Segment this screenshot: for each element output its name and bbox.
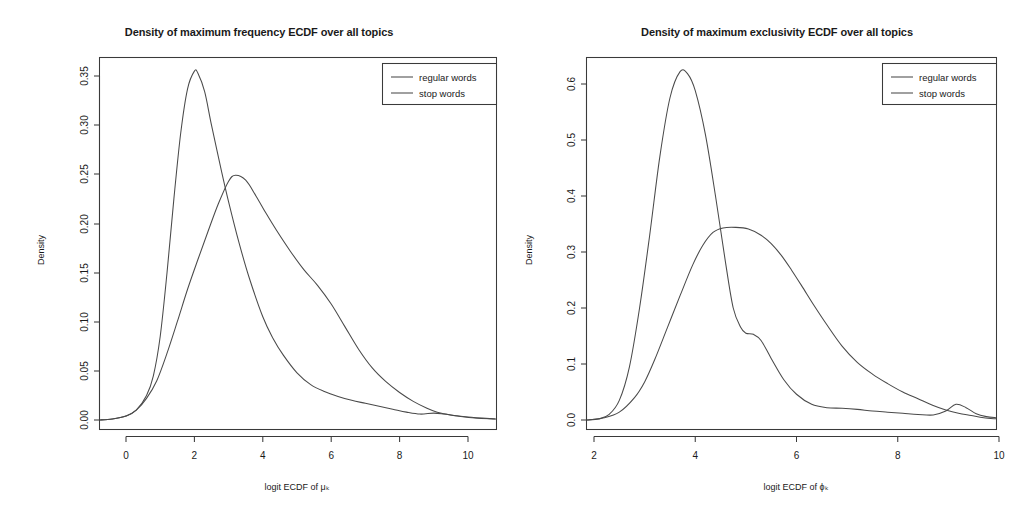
y-tick-label: 0.3 [566, 245, 577, 259]
y-axis-left: 0.00 0.05 0.10 0.15 0.20 0.25 0.30 0.35 [79, 66, 100, 430]
figure-container: Density of maximum frequency ECDF over a… [0, 0, 1036, 511]
curve-regular-words-left [99, 70, 496, 420]
y-tick-label: 0.1 [566, 357, 577, 371]
x-tick-label: 8 [397, 450, 403, 461]
chart-svg-frequency: Density of maximum frequency ECDF over a… [0, 0, 518, 511]
y-tick-label: 0.30 [79, 115, 90, 135]
y-axis-label-right: Density [524, 234, 534, 265]
y-tick-label: 0.5 [566, 133, 577, 147]
x-tick-label: 2 [591, 450, 597, 461]
chart-title-frequency: Density of maximum frequency ECDF over a… [125, 26, 393, 38]
y-tick-label: 0.20 [79, 214, 90, 234]
y-axis-label-left: Density [36, 234, 46, 265]
y-tick-label: 0.15 [79, 263, 90, 283]
legend-right[interactable]: regular words stop words [883, 64, 997, 105]
x-tick-label: 10 [462, 450, 474, 461]
x-axis-left: 0 2 4 6 8 10 [123, 437, 474, 462]
legend-label-regular-words: regular words [919, 72, 977, 83]
x-tick-label: 6 [328, 450, 334, 461]
y-tick-label: 0.6 [566, 77, 577, 91]
curve-stop-words-right [586, 227, 996, 420]
x-tick-label: 6 [794, 450, 800, 461]
plot-frame-right [587, 58, 997, 430]
legend-label-stop-words: stop words [919, 88, 965, 99]
chart-panel-exclusivity: Density of maximum exclusivity ECDF over… [518, 0, 1036, 511]
x-axis-label-right: logit ECDF of ϕₖ [763, 482, 828, 492]
y-tick-label: 0.10 [79, 312, 90, 332]
x-tick-label: 8 [895, 450, 901, 461]
y-tick-label: 0.4 [566, 189, 577, 203]
y-tick-label: 0.0 [566, 413, 577, 427]
y-tick-label: 0.25 [79, 164, 90, 184]
chart-panel-frequency: Density of maximum frequency ECDF over a… [0, 0, 518, 511]
y-tick-label: 0.00 [79, 410, 90, 430]
x-tick-label: 4 [692, 450, 698, 461]
chart-title-exclusivity: Density of maximum exclusivity ECDF over… [641, 26, 913, 38]
y-tick-label: 0.35 [79, 66, 90, 86]
curves-right [586, 70, 996, 420]
legend-label-stop-words: stop words [419, 88, 465, 99]
x-tick-label: 0 [123, 450, 129, 461]
x-axis-label-left: logit ECDF of μₖ [264, 482, 329, 492]
legend-left[interactable]: regular words stop words [383, 64, 497, 105]
curve-regular-words-right [586, 70, 996, 420]
y-axis-right: 0.0 0.1 0.2 0.3 0.4 0.5 0.6 [566, 77, 587, 427]
curves-left [99, 70, 496, 420]
x-tick-label: 4 [260, 450, 266, 461]
y-tick-label: 0.05 [79, 361, 90, 381]
legend-label-regular-words: regular words [419, 72, 477, 83]
curve-stop-words-left [99, 175, 496, 420]
x-tick-label: 2 [192, 450, 198, 461]
chart-svg-exclusivity: Density of maximum exclusivity ECDF over… [518, 0, 1036, 511]
x-axis-right: 2 4 6 8 10 [591, 437, 1005, 462]
y-tick-label: 0.2 [566, 301, 577, 315]
x-tick-label: 10 [993, 450, 1005, 461]
